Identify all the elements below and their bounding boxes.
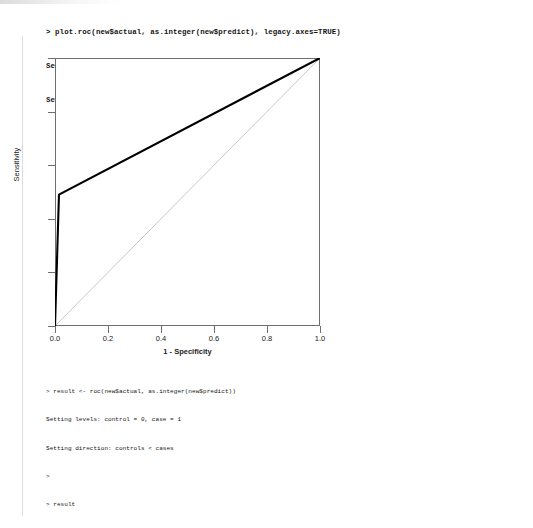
console-line: > plot.roc(new$actual, as.integer(new$pr… — [46, 27, 341, 38]
y-tick-mark — [48, 165, 55, 166]
y-tick-mark — [48, 58, 55, 59]
x-tick-mark — [320, 326, 321, 333]
scan-artifact-top — [0, 0, 120, 4]
x-tick-label: 0.6 — [201, 334, 227, 343]
console-line: Setting direction: controls < cases — [46, 444, 533, 453]
y-axis-title: Sensitivity — [12, 125, 21, 205]
x-tick-mark — [161, 326, 162, 333]
plot-canvas — [55, 58, 320, 326]
x-tick-label: 0.2 — [95, 334, 121, 343]
x-axis-title: 1 - Specificity — [55, 347, 320, 356]
x-tick-mark — [267, 326, 268, 333]
chance-diagonal-line — [55, 58, 320, 326]
x-tick-label: 0.8 — [254, 334, 280, 343]
console-output-block: > result <- roc(new$actual, as.integer(n… — [46, 368, 533, 528]
roc-plot: 0.0 0.2 0.4 0.6 0.8 1.0 0.0 0.2 0.4 0.6 … — [0, 40, 400, 365]
y-tick-mark — [48, 112, 55, 113]
console-line: > result — [46, 500, 533, 509]
x-tick-label: 0.0 — [42, 334, 68, 343]
y-tick-mark — [48, 272, 55, 273]
x-tick-label: 0.4 — [148, 334, 174, 343]
x-tick-label: 1.0 — [307, 334, 333, 343]
console-line: > — [46, 472, 533, 481]
x-tick-mark — [214, 326, 215, 333]
y-tick-mark — [48, 326, 55, 327]
console-line: Setting levels: control = 0, case = 1 — [46, 415, 533, 424]
x-tick-mark — [55, 326, 56, 333]
x-tick-mark — [108, 326, 109, 333]
y-tick-mark — [48, 219, 55, 220]
console-line: > result <- roc(new$actual, as.integer(n… — [46, 387, 533, 396]
